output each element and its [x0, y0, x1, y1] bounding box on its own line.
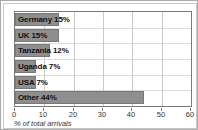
plot-area: Germany 15%UK 15%Tanzania 12%Uganda 7%US… — [14, 11, 192, 107]
x-tick-label: 30 — [98, 110, 106, 119]
bar-row[interactable]: Other 44% — [15, 90, 191, 106]
bar-label-tanzania: Tanzania 12% — [18, 44, 69, 57]
bar-label-uk: UK 15% — [18, 29, 47, 42]
bar-row[interactable]: USA 7% — [15, 75, 191, 91]
bar-row[interactable]: Tanzania 12% — [15, 43, 191, 59]
chart-figure-inner-border: Germany 15%UK 15%Tanzania 12%Uganda 7%US… — [3, 3, 197, 129]
bar-row[interactable]: UK 15% — [15, 28, 191, 44]
x-tick-label: 50 — [157, 110, 165, 119]
bar-label-uganda: Uganda 7% — [18, 60, 60, 73]
x-tick-label: 0 — [12, 110, 16, 119]
bar-row[interactable]: Germany 15% — [15, 12, 191, 28]
x-axis-ticks: 0102030405060 — [14, 108, 192, 118]
x-tick-label: 10 — [39, 110, 47, 119]
x-tick-label: 60 — [186, 110, 194, 119]
bar-label-usa: USA 7% — [18, 76, 48, 89]
x-tick-label: 40 — [127, 110, 135, 119]
bar-row[interactable]: Uganda 7% — [15, 59, 191, 75]
bar-label-other: Other 44% — [18, 91, 57, 104]
x-axis-title: % of total arrivals — [14, 119, 72, 128]
chart-figure: Germany 15%UK 15%Tanzania 12%Uganda 7%US… — [0, 0, 198, 130]
bar-label-germany: Germany 15% — [18, 13, 70, 26]
x-tick-label: 20 — [69, 110, 77, 119]
